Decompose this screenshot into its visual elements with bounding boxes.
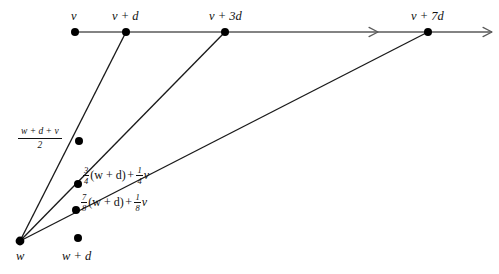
fraction-denominator: 2 <box>18 139 62 150</box>
fraction-denominator: 8 <box>134 204 140 213</box>
fraction-numerator: 3 <box>83 166 89 175</box>
point-label-v: v <box>71 10 77 23</box>
point-dot-v+7d <box>424 28 432 36</box>
fraction-numerator: 1 <box>134 193 140 202</box>
label-point-seven-eighths: 7 8 (w + d)+ 1 8 v <box>80 193 147 212</box>
operator-plus: + <box>126 168 136 182</box>
fraction-denominator: 8 <box>81 204 87 213</box>
point-dot-v <box>71 28 79 36</box>
point-label-v-plus-7d: v + 7d <box>411 10 444 23</box>
fraction-numerator: 7 <box>81 193 87 202</box>
diagram-svg <box>0 0 499 274</box>
term-first: (w + d) <box>90 168 125 182</box>
coefficient-fraction-first: 7 8 <box>81 193 87 212</box>
point-dot-point-seven-eighths <box>72 206 80 214</box>
label-midpoint-half: w + d + v 2 <box>18 127 62 150</box>
point-dot-w+d <box>74 234 82 242</box>
point-label-w-plus-d: w + d <box>62 250 91 263</box>
point-label-v-plus-3d: v + 3d <box>209 10 242 23</box>
point-dot-v+3d <box>221 28 229 36</box>
coefficient-fraction-first: 3 4 <box>83 166 89 185</box>
point-label-w: w <box>16 250 24 263</box>
point-label-v-plus-d: v + d <box>112 10 138 23</box>
label-point-three-quarters: 3 4 (w + d)+ 1 4 v <box>82 166 149 185</box>
coefficient-fraction-second: 1 4 <box>136 166 142 185</box>
fraction-numerator: 1 <box>136 166 142 175</box>
diagram-canvas: v v + d v + 3d v + 7d w w + d w + d + v … <box>0 0 499 274</box>
operator-plus: + <box>124 195 134 209</box>
fraction-numerator: w + d + v <box>18 127 62 138</box>
term-first: (w + d) <box>88 195 123 209</box>
term-second: v <box>144 168 149 182</box>
coefficient-fraction-second: 1 8 <box>134 193 140 212</box>
point-dot-point-three-quarters <box>74 180 82 188</box>
fraction-denominator: 4 <box>83 177 89 186</box>
point-dot-w <box>16 237 25 246</box>
fraction-denominator: 4 <box>136 177 142 186</box>
point-dot-midpoint-half <box>75 137 83 145</box>
term-second: v <box>142 195 147 209</box>
point-dot-v+d <box>122 28 130 36</box>
